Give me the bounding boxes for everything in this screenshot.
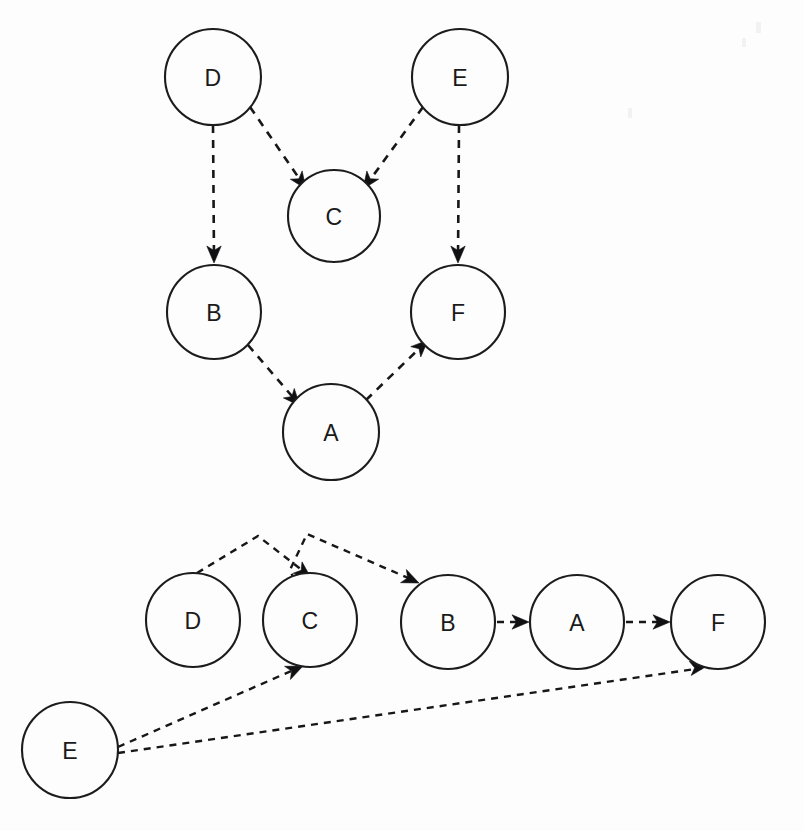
node-label-E: E [62,738,78,764]
node-top-C[interactable]: C [288,170,380,262]
node-bottom-C[interactable]: C [263,573,357,667]
node-top-D[interactable]: D [165,29,261,125]
node-top-A[interactable]: A [283,384,379,480]
node-label-F: F [451,300,465,326]
canvas-background [0,0,804,831]
node-label-C: C [302,608,319,634]
node-label-C: C [326,204,343,230]
node-label-B: B [440,610,456,636]
node-bottom-A[interactable]: A [530,575,624,669]
node-label-F: F [711,610,725,636]
node-bottom-F[interactable]: F [671,575,765,669]
diagram-canvas: DECBFA EDCBAF [0,0,804,831]
node-bottom-E[interactable]: E [22,702,118,798]
node-bottom-D[interactable]: D [146,573,240,667]
node-label-D: D [185,608,202,634]
graph-svg-root: DECBFA EDCBAF [0,0,804,831]
node-label-E: E [452,65,468,91]
node-top-B[interactable]: B [167,265,261,359]
node-label-B: B [206,300,222,326]
node-top-E[interactable]: E [412,29,508,125]
node-bottom-B[interactable]: B [401,575,495,669]
node-label-A: A [569,610,585,636]
node-label-D: D [205,65,222,91]
node-label-A: A [323,420,339,446]
node-top-F[interactable]: F [411,265,505,359]
